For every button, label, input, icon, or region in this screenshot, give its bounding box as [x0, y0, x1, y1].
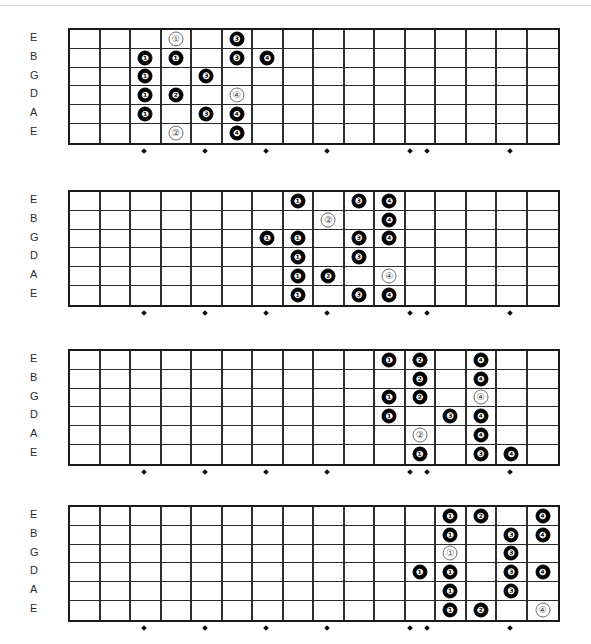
fret-cell[interactable]: ❸ [436, 407, 467, 425]
note-marker[interactable]: ❶ [290, 269, 305, 284]
fret-cell[interactable] [192, 86, 223, 104]
fret-cell[interactable] [192, 445, 223, 464]
fret-cell[interactable]: ④ [467, 389, 498, 407]
fret-cell[interactable]: ❸ [223, 30, 254, 48]
fret-cell[interactable] [70, 407, 101, 425]
fret-cell[interactable] [162, 445, 193, 464]
note-marker[interactable]: ❶ [138, 69, 153, 84]
fret-cell[interactable] [131, 563, 162, 581]
fret-cell[interactable]: ❶ [375, 407, 406, 425]
fret-cell[interactable] [314, 407, 345, 425]
fret-cell[interactable] [375, 105, 406, 123]
fret-cell[interactable]: ❶ [436, 507, 467, 525]
fret-cell[interactable] [101, 30, 132, 48]
note-marker[interactable]: ❹ [382, 193, 397, 208]
note-marker[interactable]: ❸ [199, 69, 214, 84]
fret-cell[interactable] [253, 351, 284, 369]
fret-cell[interactable] [70, 49, 101, 67]
fret-cell[interactable] [314, 192, 345, 210]
note-marker[interactable]: ❸ [504, 584, 519, 599]
fret-cell[interactable] [497, 407, 528, 425]
fret-cell[interactable] [131, 351, 162, 369]
fret-cell[interactable] [192, 230, 223, 248]
fret-cell[interactable] [314, 124, 345, 143]
note-marker[interactable]: ❶ [382, 409, 397, 424]
fret-cell[interactable] [436, 68, 467, 86]
fret-cell[interactable] [497, 286, 528, 305]
fret-cell[interactable] [101, 230, 132, 248]
fret-cell[interactable] [223, 267, 254, 285]
fret-cell[interactable] [406, 192, 437, 210]
fret-cell[interactable]: ❸ [345, 192, 376, 210]
fret-cell[interactable] [223, 211, 254, 229]
fret-cell[interactable] [436, 389, 467, 407]
fret-cell[interactable] [101, 86, 132, 104]
fret-cell[interactable]: ❷ [162, 86, 193, 104]
fret-cell[interactable] [131, 248, 162, 266]
fret-cell[interactable] [223, 426, 254, 444]
fret-cell[interactable]: ❶ [436, 563, 467, 581]
fret-cell[interactable] [467, 86, 498, 104]
note-marker[interactable]: ❶ [443, 603, 458, 618]
fret-cell[interactable] [162, 601, 193, 620]
fret-cell[interactable] [467, 248, 498, 266]
fret-cell[interactable] [314, 601, 345, 620]
fret-cell[interactable] [345, 445, 376, 464]
note-marker[interactable]: ❶ [290, 193, 305, 208]
fret-cell[interactable] [70, 230, 101, 248]
fret-cell[interactable] [253, 124, 284, 143]
fret-cell[interactable] [70, 582, 101, 600]
fret-cell[interactable] [497, 267, 528, 285]
note-marker[interactable]: ❷ [473, 508, 488, 523]
fret-cell[interactable] [345, 507, 376, 525]
note-marker[interactable]: ❷ [412, 352, 427, 367]
fret-cell[interactable] [497, 601, 528, 620]
fret-cell[interactable] [406, 30, 437, 48]
fret-cell[interactable] [253, 267, 284, 285]
fret-cell[interactable] [284, 526, 315, 544]
note-marker[interactable]: ❶ [138, 88, 153, 103]
fret-cell[interactable] [101, 105, 132, 123]
fret-cell[interactable] [314, 105, 345, 123]
note-marker[interactable]: ❸ [229, 50, 244, 65]
fret-cell[interactable]: ❹ [467, 351, 498, 369]
fret-cell[interactable] [253, 545, 284, 563]
fret-cell[interactable] [314, 30, 345, 48]
note-marker[interactable]: ❹ [229, 107, 244, 122]
fret-cell[interactable] [497, 351, 528, 369]
fret-cell[interactable] [70, 526, 101, 544]
note-marker[interactable]: ❸ [351, 231, 366, 246]
fret-cell[interactable] [406, 49, 437, 67]
fret-cell[interactable]: ② [406, 426, 437, 444]
fret-cell[interactable] [131, 30, 162, 48]
fret-cell[interactable] [345, 526, 376, 544]
fret-cell[interactable] [101, 563, 132, 581]
fret-cell[interactable] [406, 526, 437, 544]
fret-cell[interactable] [345, 582, 376, 600]
fret-cell[interactable] [70, 445, 101, 464]
fret-cell[interactable] [436, 124, 467, 143]
fret-cell[interactable] [70, 68, 101, 86]
fret-cell[interactable]: ❶ [253, 230, 284, 248]
fret-cell[interactable] [223, 563, 254, 581]
fret-cell[interactable] [345, 601, 376, 620]
note-marker[interactable]: ④ [229, 88, 244, 103]
fret-cell[interactable]: ❹ [467, 407, 498, 425]
fret-cell[interactable] [131, 601, 162, 620]
fret-cell[interactable] [497, 68, 528, 86]
fret-cell[interactable] [70, 105, 101, 123]
fret-cell[interactable] [101, 582, 132, 600]
fret-cell[interactable] [284, 582, 315, 600]
fret-cell[interactable] [528, 445, 558, 464]
fret-cell[interactable] [528, 545, 558, 563]
note-marker[interactable]: ② [412, 428, 427, 443]
fret-cell[interactable] [345, 370, 376, 388]
fret-cell[interactable] [406, 582, 437, 600]
note-marker[interactable]: ① [443, 546, 458, 561]
fret-cell[interactable]: ❹ [467, 426, 498, 444]
fret-cell[interactable] [406, 105, 437, 123]
fret-cell[interactable] [497, 49, 528, 67]
fret-cell[interactable] [314, 563, 345, 581]
fret-cell[interactable] [497, 370, 528, 388]
fret-cell[interactable] [101, 407, 132, 425]
